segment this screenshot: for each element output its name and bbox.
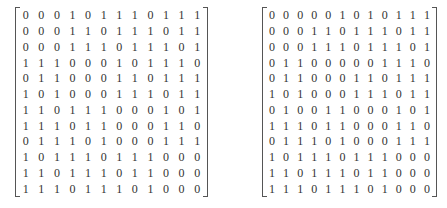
matrix-cell: 1 [279, 103, 293, 118]
matrix-cell: 1 [364, 71, 378, 86]
matrix-cell: 1 [65, 40, 81, 55]
matrix-cell: 1 [349, 71, 363, 86]
matrix-cell: 0 [158, 166, 174, 181]
matrix-cell: 1 [18, 87, 34, 102]
matrix-cell: 0 [406, 40, 420, 55]
matrix-cell: 0 [307, 71, 321, 86]
matrix-cell: 0 [349, 56, 363, 71]
matrix-cell: 1 [80, 40, 96, 55]
matrix-cell: 0 [96, 71, 112, 86]
matrix-cell: 1 [349, 24, 363, 39]
matrix-cell: 1 [18, 166, 34, 181]
matrix-cell: 1 [364, 166, 378, 181]
matrix-cell: 0 [406, 103, 420, 118]
matrix-cell: 0 [111, 119, 127, 134]
matrix-row: 111011000110 [265, 118, 434, 134]
matrix-cell: 1 [34, 119, 50, 134]
matrix-cell: 0 [293, 24, 307, 39]
matrix-cell: 0 [307, 56, 321, 71]
matrix-cell: 0 [127, 119, 143, 134]
matrix-row: 111011000110 [18, 118, 205, 134]
matrix-cell: 1 [335, 40, 349, 55]
matrix-cell: 0 [364, 119, 378, 134]
matrix-cell: 1 [378, 182, 392, 197]
matrix-cell: 1 [127, 71, 143, 86]
matrix-cell: 1 [406, 71, 420, 86]
matrix-cell: 1 [143, 40, 159, 55]
matrix-cell: 0 [293, 8, 307, 23]
matrix-cell: 1 [321, 182, 335, 197]
matrix-cell: 1 [293, 150, 307, 165]
matrix-row: 000101110111 [18, 8, 205, 24]
matrix-cell: 1 [174, 71, 190, 86]
matrix-cell: 1 [321, 119, 335, 134]
matrix-cell: 1 [111, 71, 127, 86]
matrix-cell: 1 [293, 71, 307, 86]
matrix-cell: 1 [18, 103, 34, 118]
matrix-cell: 0 [378, 103, 392, 118]
matrix-row: 110111011000 [18, 166, 205, 182]
matrix-cell: 0 [265, 103, 279, 118]
matrix-cell: 1 [80, 24, 96, 39]
matrix-cell: 0 [18, 71, 34, 86]
matrix-row: 101110111000 [265, 150, 434, 166]
matrix-cell: 1 [18, 182, 34, 197]
matrix-cell: 0 [307, 103, 321, 118]
matrix-cell: 0 [392, 24, 406, 39]
matrix-cell: 1 [321, 103, 335, 118]
matrix-cell: 1 [279, 166, 293, 181]
matrix-row: 000111011101 [18, 40, 205, 56]
matrix-cell: 1 [349, 182, 363, 197]
matrix-cell: 0 [143, 103, 159, 118]
matrix-cell: 0 [158, 87, 174, 102]
matrix-cell: 1 [364, 24, 378, 39]
matrix-cell: 1 [378, 24, 392, 39]
matrix-cell: 1 [127, 24, 143, 39]
matrix-cell: 0 [265, 56, 279, 71]
matrix-cell: 0 [174, 166, 190, 181]
matrix-cell: 1 [174, 87, 190, 102]
matrix-cell: 1 [349, 87, 363, 102]
matrix-row: 110111000101 [18, 103, 205, 119]
matrix-cell: 1 [174, 56, 190, 71]
matrix-row: 011101000111 [265, 134, 434, 150]
matrix-cell: 1 [265, 87, 279, 102]
matrix-cell: 0 [143, 134, 159, 149]
matrix-cell: 1 [158, 103, 174, 118]
matrix-cell: 1 [158, 40, 174, 55]
matrix-cell: 0 [349, 166, 363, 181]
matrix-cell: 0 [406, 182, 420, 197]
matrix-cell: 1 [406, 56, 420, 71]
matrix-cell: 1 [34, 103, 50, 118]
matrix-cell: 0 [392, 150, 406, 165]
matrix-cell: 1 [335, 166, 349, 181]
matrix-cell: 1 [143, 150, 159, 165]
matrix-cell: 1 [406, 119, 420, 134]
matrix-cell: 0 [96, 87, 112, 102]
matrix-cell: 0 [265, 40, 279, 55]
matrix-cell: 1 [18, 56, 34, 71]
matrix-cell: 0 [349, 134, 363, 149]
matrix-cell: 0 [143, 8, 159, 23]
matrix-cell: 1 [80, 119, 96, 134]
matrix-cell: 0 [80, 56, 96, 71]
right-matrix: 0000010101110001101110110001110111010110… [262, 7, 437, 197]
matrix-cell: 1 [80, 166, 96, 181]
matrix-cell: 1 [174, 24, 190, 39]
matrix-cell: 1 [378, 150, 392, 165]
matrix-row: 011000110111 [18, 71, 205, 87]
matrix-cell: 1 [378, 56, 392, 71]
matrix-cell: 1 [265, 182, 279, 197]
matrix-cell: 0 [378, 134, 392, 149]
matrix-row: 101110111000 [18, 150, 205, 166]
matrix-cell: 1 [406, 8, 420, 23]
matrix-cell: 1 [111, 24, 127, 39]
matrix-cell: 1 [96, 103, 112, 118]
matrix-cell: 1 [321, 24, 335, 39]
matrix-cell: 1 [378, 40, 392, 55]
matrix-cell: 0 [335, 56, 349, 71]
matrix-cell: 0 [349, 119, 363, 134]
matrix-cell: 0 [392, 182, 406, 197]
matrix-cell: 0 [111, 134, 127, 149]
matrix-cell: 1 [279, 134, 293, 149]
